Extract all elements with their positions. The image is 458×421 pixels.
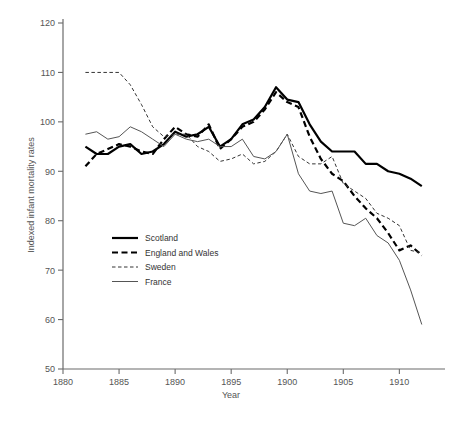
y-tick-label: 110	[41, 68, 55, 78]
y-tick-label: 80	[45, 216, 55, 226]
series-line-france	[85, 127, 421, 325]
y-tick-label: 50	[45, 364, 55, 374]
y-tick-label: 100	[40, 117, 55, 127]
y-tick-label: 90	[45, 167, 55, 177]
legend-label-france: France	[145, 277, 172, 287]
legend-label-sweden: Sweden	[145, 262, 176, 272]
legend-label-scotland: Scotland	[145, 233, 178, 243]
y-tick-label: 120	[40, 18, 55, 28]
x-tick-label: 1885	[109, 377, 129, 387]
chart-legend: ScotlandEngland and WalesSwedenFrance	[112, 233, 218, 287]
chart-container: 5060708090100110120188018851890189519001…	[0, 0, 458, 421]
x-axis-title: Year	[222, 390, 240, 400]
line-chart: 5060708090100110120188018851890189519001…	[0, 0, 458, 421]
series-line-scotland	[85, 87, 421, 186]
y-tick-label: 60	[45, 315, 55, 325]
x-tick-label: 1895	[221, 377, 241, 387]
x-tick-label: 1910	[389, 377, 409, 387]
data-series	[85, 72, 421, 324]
legend-label-england-and-wales: England and Wales	[145, 248, 218, 258]
tick-labels: 5060708090100110120188018851890189519001…	[40, 18, 409, 387]
series-line-england-and-wales	[85, 92, 421, 255]
x-tick-label: 1905	[333, 377, 353, 387]
series-line-sweden	[85, 72, 421, 252]
x-tick-label: 1900	[277, 377, 297, 387]
y-tick-label: 70	[45, 266, 55, 276]
x-tick-label: 1890	[165, 377, 185, 387]
x-tick-label: 1880	[53, 377, 73, 387]
y-axis-title: Indexed infant mortality rates	[26, 137, 36, 253]
